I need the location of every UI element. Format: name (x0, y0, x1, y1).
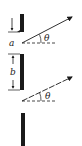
separation-dimension: b (8, 54, 20, 90)
angle-label-bottom: θ (45, 91, 51, 101)
middle-plate (20, 54, 24, 90)
top-diffracted-ray: θ (22, 17, 72, 43)
separation-label: b (10, 67, 16, 77)
bottom-diffracted-ray: θ (22, 77, 72, 101)
angle-label-top: θ (44, 33, 50, 43)
slit-width-dimension: a (8, 18, 20, 48)
slit-diffraction-diagram: a θ b θ (0, 0, 82, 146)
top-plate (17, 14, 24, 32)
bottom-plate (21, 113, 25, 146)
slit-width-label: a (9, 38, 14, 48)
